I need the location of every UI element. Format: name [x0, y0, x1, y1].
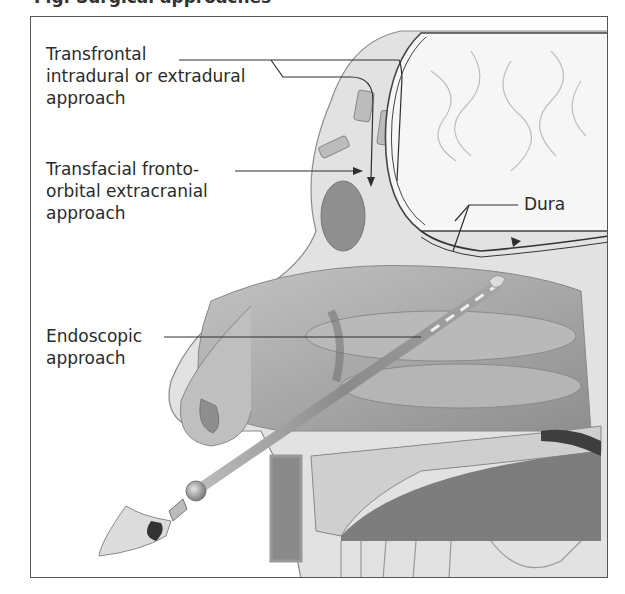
figure-caption-partial: Fig. Surgical approaches	[34, 0, 271, 7]
label-endoscopic-approach: Endoscopic approach	[46, 325, 142, 369]
label-transfacial-approach: Transfacial fronto- orbital extracranial…	[46, 158, 208, 224]
brain	[385, 33, 608, 257]
label-transfrontal-approach: Transfrontal intradural or extradural ap…	[46, 43, 245, 109]
figure-frame: Transfrontal intradural or extradural ap…	[30, 16, 608, 578]
label-dura: Dura	[524, 193, 565, 215]
